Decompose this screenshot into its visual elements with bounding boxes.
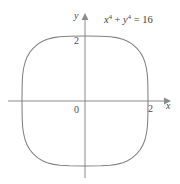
origin-label: 0 bbox=[74, 105, 79, 115]
equation-constant: 16 bbox=[142, 14, 153, 25]
graph-figure: y x 2 2 0 x4 + y4 = 16 bbox=[0, 0, 180, 184]
equation-equals-operator: = bbox=[131, 14, 142, 25]
equation-annotation: x4 + y4 = 16 bbox=[104, 15, 153, 26]
plot-canvas bbox=[0, 0, 180, 184]
y-axis-label: y bbox=[74, 11, 78, 21]
x-axis-label: x bbox=[166, 101, 170, 111]
y-axis-tick-label-2: 2 bbox=[74, 36, 79, 46]
x-axis-tick-label-2: 2 bbox=[148, 104, 153, 114]
equation-plus-operator: + bbox=[112, 14, 123, 25]
y-axis-arrowhead bbox=[82, 13, 89, 20]
